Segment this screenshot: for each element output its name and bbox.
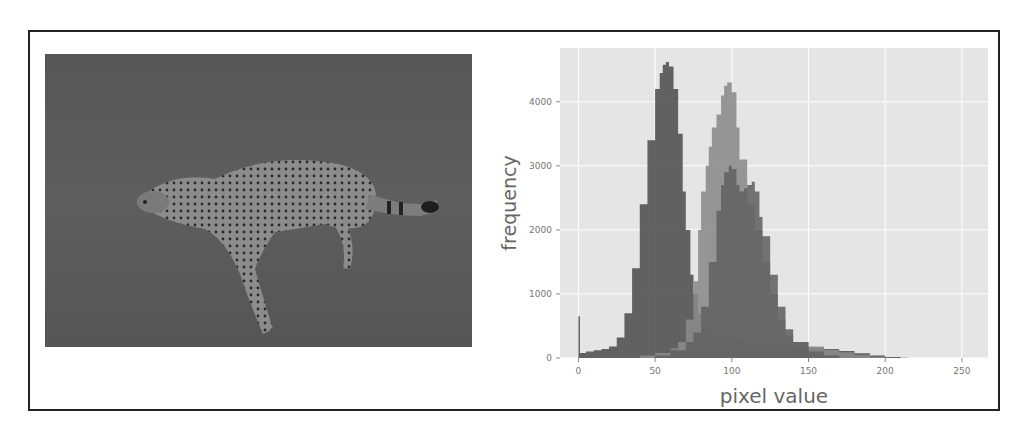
x-tick-label: 200 — [877, 366, 894, 376]
histogram-chart: 050100150200250 01000200030004000 pixel … — [0, 0, 1026, 440]
y-tick-label: 3000 — [529, 161, 552, 171]
x-tick-label: 250 — [953, 366, 970, 376]
y-axis-label: frequency — [498, 155, 520, 250]
y-tick-label: 1000 — [529, 289, 552, 299]
x-axis-ticks: 050100150200250 — [576, 358, 971, 376]
x-axis-label: pixel value — [720, 384, 828, 408]
y-tick-label: 0 — [546, 353, 552, 363]
y-tick-label: 4000 — [529, 97, 552, 107]
x-tick-label: 100 — [723, 366, 740, 376]
x-tick-label: 0 — [576, 366, 582, 376]
y-tick-label: 2000 — [529, 225, 552, 235]
x-tick-label: 150 — [800, 366, 817, 376]
x-tick-label: 50 — [649, 366, 661, 376]
y-axis-ticks: 01000200030004000 — [529, 97, 560, 363]
